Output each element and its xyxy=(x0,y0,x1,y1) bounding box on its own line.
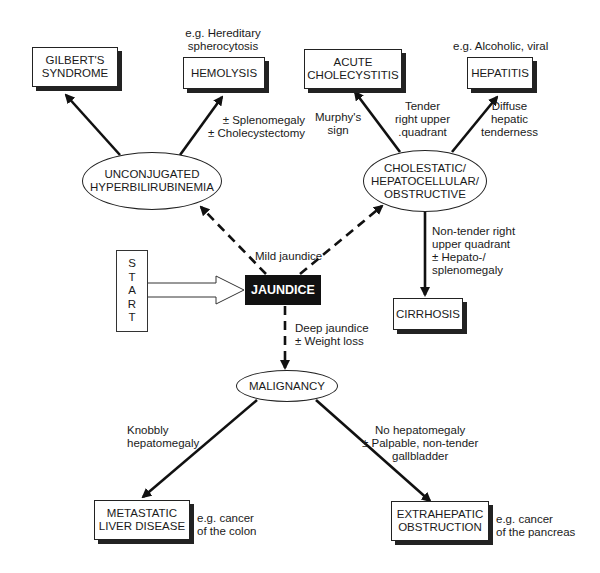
node-hepatitis: HEPATITIS xyxy=(467,57,533,89)
node-acute-cholecystitis: ACUTE CHOLECYSTITIS xyxy=(304,49,402,89)
node-cirrhosis: CIRRHOSIS xyxy=(393,298,463,330)
start-letter: T xyxy=(128,311,135,325)
start-arrow xyxy=(147,276,244,304)
edge-jaundice-unconj xyxy=(201,207,266,274)
label-mild-jaundice: Mild jaundice xyxy=(255,250,322,263)
node-jaundice: JAUNDICE xyxy=(245,275,321,305)
start-letter: T xyxy=(128,271,135,285)
label-splenomegaly: ± Splenomegaly ± Cholecystectomy xyxy=(208,114,305,140)
label-diffuse-tenderness: Diffuse hepatic tenderness xyxy=(481,100,538,139)
start-letter: S xyxy=(128,257,136,271)
label-murphys-sign: Murphy's sign xyxy=(315,111,361,137)
node-cholestatic: CHOLESTATIC/ HEPATOCELLULAR/ OBSTRUCTIVE xyxy=(363,150,487,212)
label-colon-example: e.g. cancer of the colon xyxy=(197,512,256,538)
edge-jaundice-chole xyxy=(300,206,382,274)
label-hepatitis-example: e.g. Alcoholic, viral xyxy=(453,40,548,53)
start-letter: A xyxy=(128,284,136,298)
label-pancreas-example: e.g. cancer of the pancreas xyxy=(496,513,575,539)
node-gilberts-syndrome: GILBERT'S SYNDROME xyxy=(32,47,118,87)
label-deep-jaundice: Deep jaundice ± Weight loss xyxy=(295,322,369,348)
node-hemolysis: HEMOLYSIS xyxy=(183,57,265,89)
node-unconjugated-hyperbilirubinemia: UNCONJUGATED HYPERBILIRUBINEMIA xyxy=(82,152,222,210)
start-letter: R xyxy=(128,298,136,312)
label-hemolysis-example: e.g. Hereditary spherocytosis xyxy=(183,27,263,53)
edge-unconj-gilbert xyxy=(66,95,120,155)
label-tender-ruq: Tender right upper .quadrant xyxy=(395,100,450,139)
node-metastatic-liver-disease: METASTATIC LIVER DISEASE xyxy=(94,500,190,540)
node-extrahepatic-obstruction: EXTRAHEPATIC OBSTRUCTION xyxy=(391,501,489,541)
label-nontender-ruq: Non-tender right upper quadrant ± Hepato… xyxy=(432,225,515,277)
start-box: S T A R T xyxy=(116,250,148,332)
node-malignancy: MALIGNANCY xyxy=(236,370,338,402)
label-knobbly-hepatomegaly: Knobbly hepatomegaly xyxy=(127,424,199,450)
label-no-hepatomegaly: No hepatomegaly ± Palpable, non-tender g… xyxy=(362,424,478,463)
edge-chole-acute xyxy=(355,92,400,152)
